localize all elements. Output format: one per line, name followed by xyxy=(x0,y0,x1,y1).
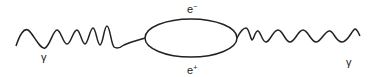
photon-out-label: γ xyxy=(346,57,352,68)
incoming-photon-line xyxy=(16,26,145,48)
fermion-loop xyxy=(145,19,237,57)
gamma-symbol: γ xyxy=(41,51,47,63)
positron-label: e+ xyxy=(187,64,197,76)
electron-label: e− xyxy=(187,3,197,15)
gamma-symbol: γ xyxy=(346,56,352,68)
photon-in-label: γ xyxy=(41,52,47,63)
electron-charge: − xyxy=(193,3,197,10)
outgoing-photon-line xyxy=(237,28,360,42)
positron-charge: + xyxy=(193,64,197,71)
